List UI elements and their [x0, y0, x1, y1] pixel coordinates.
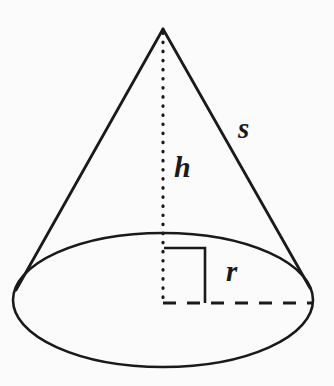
- cone-figure: [0, 0, 334, 386]
- cone-left-slant-line: [16, 29, 163, 290]
- right-angle-marker: [164, 248, 205, 303]
- cone-diagram-canvas: s h r: [0, 0, 334, 386]
- height-label: h: [174, 152, 191, 182]
- radius-label: r: [226, 257, 237, 286]
- slant-height-label: s: [238, 114, 249, 143]
